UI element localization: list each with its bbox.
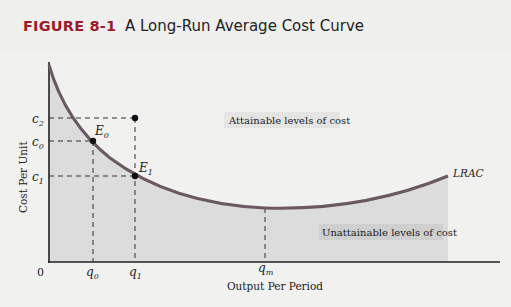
tick-q0: q0 — [86, 265, 99, 281]
tick-c2: c2 — [32, 112, 44, 128]
label-e0: E0 — [94, 124, 109, 140]
point-e1 — [132, 173, 138, 179]
lrac-label: LRAC — [452, 167, 484, 179]
point-e0 — [90, 138, 96, 144]
x-axis-label: Output Per Period — [227, 280, 323, 292]
label-e1: E1 — [138, 161, 153, 177]
unattainable-label: Unattainable levels of cost — [322, 227, 457, 238]
attainable-label: Attainable levels of cost — [228, 115, 350, 126]
y-axis-label: Cost Per Unit — [17, 141, 29, 213]
tick-qm: qm — [258, 261, 274, 277]
tick-c0: c0 — [32, 135, 44, 151]
tick-origin: 0 — [37, 266, 44, 279]
tick-c1: c1 — [32, 170, 44, 186]
point-q1-c2 — [132, 115, 138, 121]
tick-q1: q1 — [129, 265, 142, 281]
lrac-chart: c2 c0 c1 Cost Per Unit 0 q0 q1 qm Output… — [0, 0, 511, 307]
